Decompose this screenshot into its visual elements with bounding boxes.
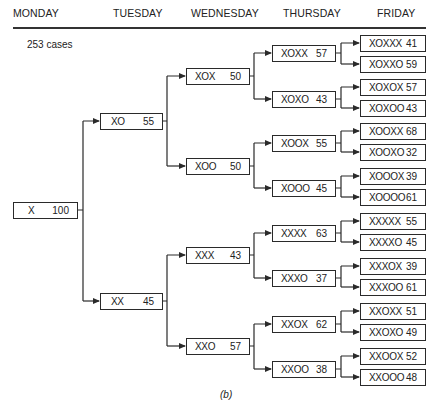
node-value: 63 xyxy=(316,226,327,241)
node-label: XO xyxy=(111,114,125,129)
node-thursday-XXXX: XXXX 63 xyxy=(272,225,336,242)
node-label: XOOO xyxy=(281,181,310,196)
node-friday-XXOXX: XXOXX 51 xyxy=(360,303,426,320)
node-label: XOOXX xyxy=(369,124,403,139)
node-friday-XOOXO: XOOXO 32 xyxy=(360,144,426,161)
node-value: 57 xyxy=(316,46,327,61)
node-value: 43 xyxy=(316,92,327,107)
node-value: 68 xyxy=(406,124,417,139)
node-friday-XOOOO: XOOOO 61 xyxy=(360,189,426,206)
node-label: XXXO xyxy=(281,271,308,286)
node-value: 43 xyxy=(230,248,241,263)
node-value: 45 xyxy=(316,181,327,196)
node-label: XXX xyxy=(195,248,214,263)
node-friday-XOXOX: XOXOX 57 xyxy=(360,79,426,96)
node-wednesday-XXX: XXX 43 xyxy=(186,247,250,264)
figure-caption: (b) xyxy=(220,389,232,400)
node-friday-XOXOO: XOXOO 43 xyxy=(360,100,426,117)
node-label: XXOX xyxy=(281,317,308,332)
node-value: 59 xyxy=(406,57,417,72)
node-thursday-XXOO: XXOO 38 xyxy=(272,361,336,378)
node-label: X xyxy=(28,203,34,218)
node-value: 50 xyxy=(230,159,241,174)
node-label: XX xyxy=(111,294,124,309)
node-label: XOXOX xyxy=(369,80,403,95)
node-label: XOOXO xyxy=(369,145,404,160)
node-friday-XXOOO: XXOOO 48 xyxy=(360,369,426,386)
node-value: 61 xyxy=(406,190,417,205)
node-value: 39 xyxy=(406,259,417,274)
node-label: XOOOX xyxy=(369,169,404,184)
node-value: 48 xyxy=(406,370,417,385)
node-tuesday-XX: XX 45 xyxy=(100,293,163,310)
node-label: XXOOX xyxy=(369,349,403,364)
node-value: 43 xyxy=(406,101,417,116)
node-label: XXXOX xyxy=(369,259,402,274)
node-wednesday-XOO: XOO 50 xyxy=(186,158,250,175)
node-friday-XXOXO: XXOXO 49 xyxy=(360,324,426,341)
node-value: 52 xyxy=(406,349,417,364)
node-value: 55 xyxy=(143,114,154,129)
node-label: XXXX xyxy=(281,226,306,241)
node-label: XOXXX xyxy=(369,36,402,51)
node-label: XXXXX xyxy=(369,214,401,229)
node-value: 50 xyxy=(230,69,241,84)
node-thursday-XOXX: XOXX 57 xyxy=(272,45,336,62)
node-value: 45 xyxy=(143,294,154,309)
node-friday-XOXXO: XOXXO 59 xyxy=(360,56,426,73)
node-label: XOXO xyxy=(281,92,309,107)
node-label: XXXXO xyxy=(369,235,402,250)
node-friday-XXXXX: XXXXX 55 xyxy=(360,213,426,230)
node-value: 49 xyxy=(406,325,417,340)
node-label: XXOXX xyxy=(369,304,402,319)
node-value: 100 xyxy=(52,203,69,218)
node-label: XOOX xyxy=(281,136,309,151)
node-label: XXO xyxy=(195,339,215,354)
node-wednesday-XXO: XXO 57 xyxy=(186,338,250,355)
node-friday-XXXXO: XXXXO 45 xyxy=(360,234,426,251)
node-friday-XOXXX: XOXXX 41 xyxy=(360,35,426,52)
node-value: 32 xyxy=(406,145,417,160)
node-label: XXOXO xyxy=(369,325,403,340)
node-friday-XXXOX: XXXOX 39 xyxy=(360,258,426,275)
node-label: XOOOO xyxy=(369,190,405,205)
node-label: XXOO xyxy=(281,362,309,377)
node-monday-X: X 100 xyxy=(13,202,78,219)
node-thursday-XOOO: XOOO 45 xyxy=(272,180,336,197)
node-value: 41 xyxy=(406,36,417,51)
node-label: XOXOO xyxy=(369,101,404,116)
node-value: 38 xyxy=(316,362,327,377)
node-value: 61 xyxy=(406,280,417,295)
node-label: XXXOO xyxy=(369,280,403,295)
node-value: 45 xyxy=(406,235,417,250)
node-tuesday-XO: XO 55 xyxy=(100,113,163,130)
node-value: 57 xyxy=(230,339,241,354)
node-friday-XXXOO: XXXOO 61 xyxy=(360,279,426,296)
node-label: XOX xyxy=(195,69,215,84)
node-value: 55 xyxy=(316,136,327,151)
node-thursday-XXOX: XXOX 62 xyxy=(272,316,336,333)
node-value: 62 xyxy=(316,317,327,332)
node-label: XXOOO xyxy=(369,370,404,385)
node-value: 37 xyxy=(316,271,327,286)
node-value: 51 xyxy=(406,304,417,319)
node-friday-XXOOX: XXOOX 52 xyxy=(360,348,426,365)
node-friday-XOOXX: XOOXX 68 xyxy=(360,123,426,140)
node-label: XOXX xyxy=(281,46,308,61)
node-thursday-XOOX: XOOX 55 xyxy=(272,135,336,152)
node-label: XOXXO xyxy=(369,57,403,72)
node-value: 55 xyxy=(406,214,417,229)
node-friday-XOOOX: XOOOX 39 xyxy=(360,168,426,185)
node-value: 39 xyxy=(406,169,417,184)
node-wednesday-XOX: XOX 50 xyxy=(186,68,250,85)
node-label: XOO xyxy=(195,159,216,174)
node-value: 57 xyxy=(406,80,417,95)
node-thursday-XXXO: XXXO 37 xyxy=(272,270,336,287)
node-thursday-XOXO: XOXO 43 xyxy=(272,91,336,108)
